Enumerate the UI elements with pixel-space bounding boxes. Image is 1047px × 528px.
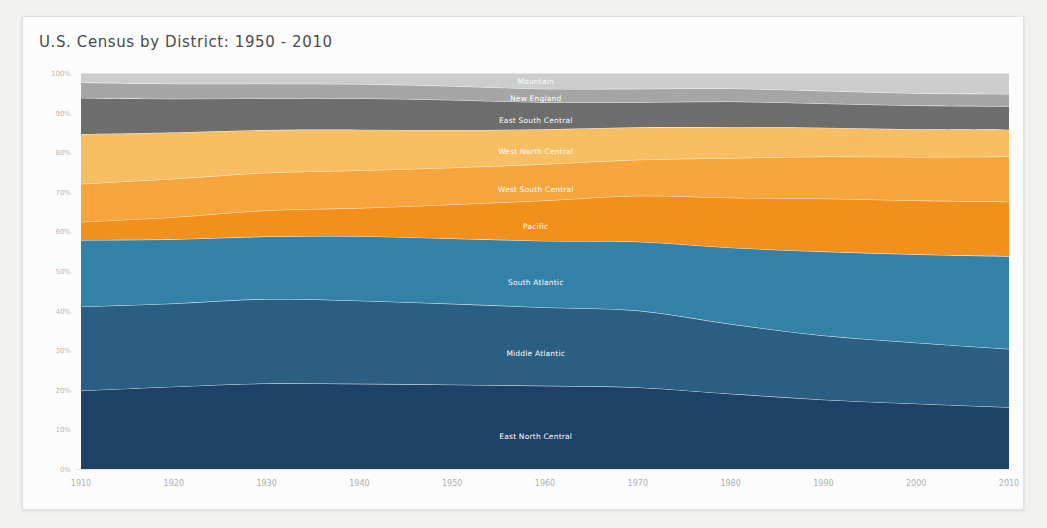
x-tick-label: 1950 [442, 479, 462, 488]
chart-card: U.S. Census by District: 1950 - 2010 0%1… [22, 16, 1024, 510]
y-axis-ticks: 0%10%20%30%40%50%60%70%80%90%100% [51, 70, 71, 474]
y-tick-label: 80% [55, 149, 71, 157]
x-tick-label: 2000 [906, 479, 926, 488]
y-tick-label: 90% [55, 110, 71, 118]
chart-plot-area[interactable]: 0%10%20%30%40%50%60%70%80%90%100%1910192… [23, 65, 1023, 509]
y-tick-label: 70% [55, 189, 71, 197]
x-tick-label: 1980 [720, 479, 740, 488]
series-label: Pacific [523, 222, 548, 231]
x-tick-label: 1920 [164, 479, 184, 488]
series-label: West South Central [498, 185, 574, 194]
series-label: South Atlantic [508, 278, 564, 287]
x-tick-label: 2010 [999, 479, 1019, 488]
x-tick-label: 1940 [349, 479, 369, 488]
series-label: East North Central [499, 432, 572, 441]
page-title: U.S. Census by District: 1950 - 2010 [39, 33, 333, 51]
series-label: West North Central [498, 147, 573, 156]
y-tick-label: 30% [55, 347, 71, 355]
y-tick-label: 20% [55, 387, 71, 395]
y-tick-label: 60% [55, 228, 71, 236]
x-axis-ticks: 1910192019301940195019601970198019902000… [71, 479, 1019, 488]
x-tick-label: 1910 [71, 479, 91, 488]
series-label: Middle Atlantic [506, 349, 565, 358]
x-tick-label: 1990 [813, 479, 833, 488]
y-tick-label: 100% [51, 70, 71, 78]
y-tick-label: 50% [55, 268, 71, 276]
series-label: Mountain [517, 77, 554, 86]
chart-bands [81, 73, 1009, 469]
x-tick-label: 1970 [628, 479, 648, 488]
y-tick-label: 10% [55, 426, 71, 434]
stacked-area-chart[interactable]: 0%10%20%30%40%50%60%70%80%90%100%1910192… [23, 65, 1023, 509]
x-tick-label: 1960 [535, 479, 555, 488]
y-tick-label: 40% [55, 308, 71, 316]
series-label: New England [510, 94, 561, 103]
series-label: East South Central [499, 116, 573, 125]
x-tick-label: 1930 [256, 479, 276, 488]
screenshot-root: U.S. Census by District: 1950 - 2010 0%1… [0, 0, 1047, 528]
y-tick-label: 0% [60, 466, 71, 474]
